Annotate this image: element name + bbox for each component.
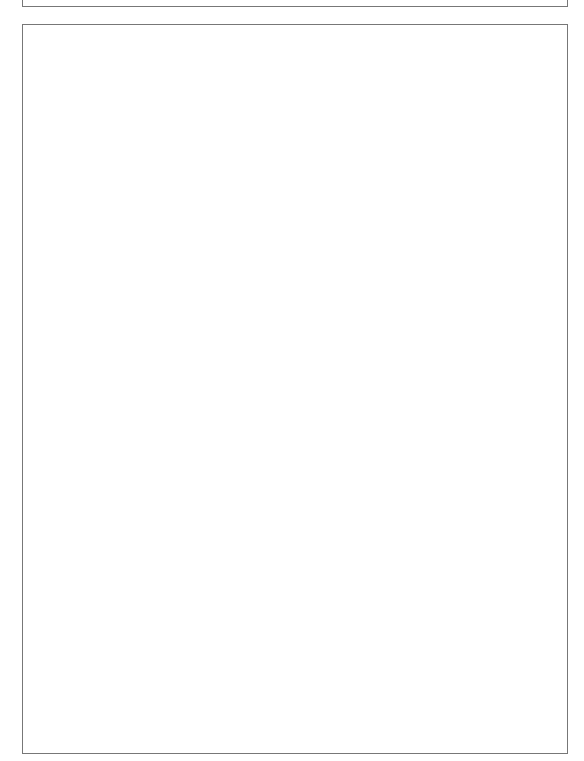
top-frame xyxy=(22,0,568,7)
main-frame xyxy=(22,24,568,754)
